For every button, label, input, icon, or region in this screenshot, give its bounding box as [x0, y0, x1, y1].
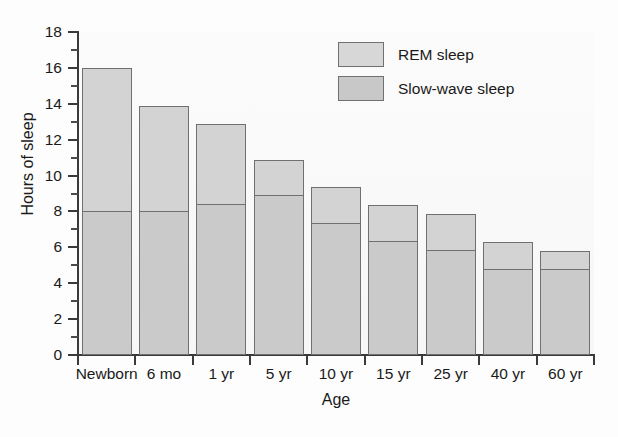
bar-segment-slow-wave-sleep [311, 223, 361, 355]
bar-25-yr [426, 214, 476, 355]
x-tick-3 [306, 356, 308, 365]
y-tick-14 [68, 103, 78, 105]
x-tick-6 [478, 356, 480, 365]
bar-segment-slow-wave-sleep [368, 241, 418, 355]
x-tick-1 [192, 356, 194, 365]
bar-segment-slow-wave-sleep [426, 250, 476, 355]
y-minor-tick-15 [71, 85, 78, 87]
y-tick-label-2: 2 [0, 311, 62, 327]
bar-5-yr [254, 160, 304, 355]
bar-segment-rem-sleep [196, 124, 246, 205]
legend-swatch-sws [338, 76, 384, 101]
bar-segment-rem-sleep [311, 187, 361, 223]
y-tick-18 [68, 31, 78, 33]
bar-15-yr [368, 205, 418, 355]
y-minor-tick-9 [71, 193, 78, 195]
legend-label: REM sleep [398, 46, 474, 64]
y-tick-2 [68, 318, 78, 320]
bar-newborn [82, 68, 132, 355]
bar-segment-slow-wave-sleep [82, 211, 132, 355]
bar-segment-slow-wave-sleep [483, 269, 533, 355]
bar-segment-rem-sleep [540, 251, 590, 269]
x-tick-8 [593, 356, 595, 365]
legend-item-rem-sleep: REM sleep [338, 42, 514, 67]
x-tick-7 [536, 356, 538, 365]
bar-segment-rem-sleep [426, 214, 476, 250]
y-tick-label-4: 4 [0, 275, 62, 291]
bar-segment-slow-wave-sleep [196, 204, 246, 355]
y-tick-label-18: 18 [0, 24, 62, 40]
bar-segment-slow-wave-sleep [139, 211, 189, 355]
y-tick-4 [68, 282, 78, 284]
bar-segment-rem-sleep [483, 242, 533, 269]
y-minor-tick-7 [71, 228, 78, 230]
y-minor-tick-11 [71, 157, 78, 159]
bar-60-yr [540, 251, 590, 355]
x-tick-5 [421, 356, 423, 365]
bar-1-yr [196, 124, 246, 355]
x-tick-4 [364, 356, 366, 365]
legend-swatch-rem [338, 42, 384, 67]
y-tick-8 [68, 210, 78, 212]
bar-segment-slow-wave-sleep [540, 269, 590, 355]
y-tick-6 [68, 246, 78, 248]
y-minor-tick-13 [71, 121, 78, 123]
bar-segment-rem-sleep [82, 68, 132, 212]
y-tick-12 [68, 139, 78, 141]
x-axis-title: Age [78, 391, 594, 409]
y-axis-title: Hours of sleep [19, 64, 37, 264]
legend-label: Slow-wave sleep [398, 80, 514, 98]
x-tick-label-60-yr: 60 yr [529, 366, 602, 382]
bar-40-yr [483, 242, 533, 355]
bar-segment-slow-wave-sleep [254, 195, 304, 355]
y-minor-tick-5 [71, 264, 78, 266]
bar-10-yr [311, 187, 361, 355]
bar-segment-rem-sleep [368, 205, 418, 241]
x-tick-0 [134, 356, 136, 365]
legend: REM sleepSlow-wave sleep [338, 42, 514, 110]
sleep-stages-bar-chart: 024681012141618 Newborn6 mo1 yr5 yr10 yr… [0, 0, 618, 437]
x-tick-origin [77, 356, 79, 365]
y-minor-tick-3 [71, 300, 78, 302]
y-tick-10 [68, 175, 78, 177]
legend-item-slow-wave-sleep: Slow-wave sleep [338, 76, 514, 101]
y-tick-16 [68, 67, 78, 69]
y-minor-tick-17 [71, 49, 78, 51]
bar-segment-rem-sleep [254, 160, 304, 195]
x-tick-2 [249, 356, 251, 365]
bar-segment-rem-sleep [139, 106, 189, 212]
bar-6-mo [139, 106, 189, 355]
y-tick-label-0: 0 [0, 347, 62, 363]
y-minor-tick-1 [71, 336, 78, 338]
